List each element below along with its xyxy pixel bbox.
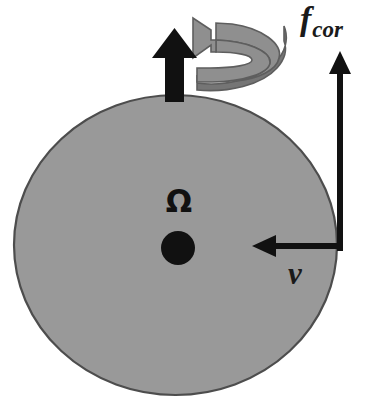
coriolis-force-diagram: fcor v Ω <box>0 0 373 414</box>
coriolis-force-subscript: cor <box>312 17 343 42</box>
angular-velocity-label: Ω <box>160 186 198 217</box>
velocity-label: v <box>288 258 302 289</box>
coriolis-force-symbol: f <box>300 0 311 37</box>
rotation-direction-arrow <box>193 18 286 91</box>
rotation-axis-arrow <box>152 28 197 102</box>
center-point <box>161 231 195 265</box>
ribbon-arrowhead <box>193 18 216 58</box>
coriolis-force-label: fcor <box>300 2 342 36</box>
